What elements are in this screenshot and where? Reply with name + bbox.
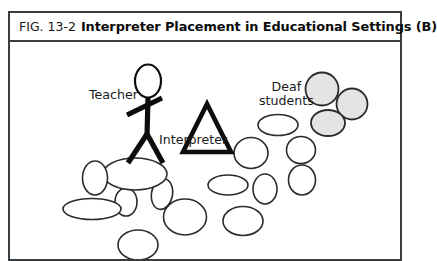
classroom-layout-diagram [10, 42, 400, 259]
figure-caption-bar: FIG. 13-2 Interpreter Placement in Educa… [10, 13, 400, 42]
ellipse-icon [63, 199, 121, 220]
ellipse-icon [234, 138, 268, 169]
ellipse-icon [208, 175, 248, 195]
deaf-students-label-line2: students [259, 94, 314, 108]
deaf-students-label: Deaf students [259, 80, 314, 108]
ellipse-icon [287, 137, 316, 164]
figure-number: FIG. 13-2 [19, 19, 76, 34]
stick-figure-head [135, 65, 161, 98]
deaf-student-group [306, 73, 368, 137]
deaf-students-label-line1: Deaf [259, 80, 314, 94]
figure-title: Interpreter Placement in Educational Set… [81, 19, 437, 34]
ellipse-icon [289, 165, 316, 195]
ellipse-icon [103, 158, 167, 190]
interpreter-label: Interpreter [159, 133, 227, 146]
figure-frame: FIG. 13-2 Interpreter Placement in Educa… [8, 11, 402, 261]
diagram-canvas: Teacher Interpreter Deaf students [10, 42, 400, 259]
ellipse-icon [253, 174, 277, 204]
teacher-label: Teacher [89, 88, 138, 101]
ellipse-icon [118, 230, 158, 259]
ellipse-icon [164, 199, 207, 235]
ellipse-icon [83, 161, 108, 195]
shaded-circle-icon [311, 110, 345, 136]
ellipse-icon [258, 115, 298, 136]
stick-figure-icon [127, 65, 163, 164]
ellipse-icon [223, 207, 263, 236]
